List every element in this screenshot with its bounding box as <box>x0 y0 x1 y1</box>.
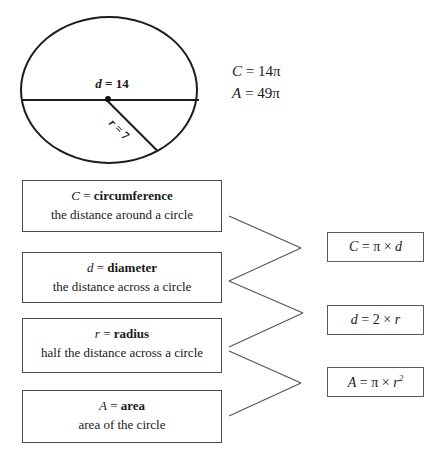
definition-equals: = <box>93 260 107 275</box>
given-area-symbol: A <box>232 85 241 101</box>
definition-description: the distance around a circle <box>23 205 221 225</box>
definition-box-diameter: d = diameter the distance across a circl… <box>22 252 222 303</box>
definition-symbol: C <box>71 188 80 203</box>
diameter-equals: = <box>102 76 116 91</box>
given-circumference-equals: = <box>242 63 258 79</box>
circle-center-point <box>105 96 111 102</box>
definition-title: A = area <box>23 397 221 415</box>
circle-figure: d = 14 r = 7 <box>20 16 204 170</box>
diameter-value: 14 <box>116 76 129 91</box>
formula-rhs-var: r <box>395 312 400 327</box>
definition-description: the distance across a circle <box>23 277 221 297</box>
connector-1-upper <box>229 216 301 248</box>
formula-box-circumference: C = π × d <box>327 232 424 262</box>
definition-title: C = circumference <box>23 187 221 205</box>
formula-box-area: A = π × r2 <box>327 367 424 397</box>
diameter-label: d = 14 <box>72 76 152 92</box>
formula-lhs: C <box>349 239 358 254</box>
definition-equals: = <box>80 188 94 203</box>
connector-3-lower <box>229 383 301 416</box>
given-circumference-value: 14 <box>258 63 273 79</box>
definition-term: circumference <box>94 188 173 203</box>
definition-title: r = radius <box>23 325 221 343</box>
formula-rhs-var: d <box>395 239 402 254</box>
formula-equals: = <box>358 312 373 327</box>
given-circumference-symbol: C <box>232 63 242 79</box>
connector-1-lower <box>229 248 301 281</box>
formula-coefficient: 2 <box>373 312 380 327</box>
definition-description: half the distance across a circle <box>23 343 221 363</box>
formula-equals: = <box>358 239 373 254</box>
given-area-equals: = <box>241 85 257 101</box>
given-value-area: A = 49π <box>232 82 281 104</box>
connector-2-upper <box>229 281 303 313</box>
formula-box-diameter: d = 2 × r <box>327 305 424 335</box>
formula-operator: × <box>380 312 395 327</box>
formula-exponent: 2 <box>399 373 404 383</box>
formula-expression: d = 2 × r <box>351 312 400 328</box>
definition-term: radius <box>114 326 149 341</box>
given-value-circumference: C = 14π <box>232 60 281 82</box>
formula-expression: A = π × r2 <box>348 373 403 391</box>
given-values: C = 14π A = 49π <box>232 60 281 104</box>
connector-3-upper <box>229 351 301 383</box>
definition-term: area <box>121 398 145 413</box>
definition-box-area: A = area area of the circle <box>22 390 222 443</box>
circle-concept-diagram: d = 14 r = 7 C = 14π A = 49π C = circumf… <box>0 0 439 454</box>
definition-description: area of the circle <box>23 415 221 435</box>
formula-operator: × <box>380 239 395 254</box>
definition-symbol: A <box>99 398 107 413</box>
formula-lhs: d <box>351 312 358 327</box>
definition-title: d = diameter <box>23 259 221 277</box>
connector-2-lower <box>229 313 303 347</box>
formula-expression: C = π × d <box>349 239 402 255</box>
given-area-value: 49 <box>257 85 272 101</box>
definition-term: diameter <box>107 260 157 275</box>
definition-equals: = <box>107 398 121 413</box>
definition-box-radius: r = radius half the distance across a ci… <box>22 318 222 373</box>
formula-equals: = <box>356 375 371 390</box>
definition-box-circumference: C = circumference the distance around a … <box>22 180 222 232</box>
pi-symbol: π <box>272 85 280 101</box>
formula-operator: × <box>378 375 393 390</box>
definition-equals: = <box>100 326 114 341</box>
pi-symbol: π <box>273 63 281 79</box>
